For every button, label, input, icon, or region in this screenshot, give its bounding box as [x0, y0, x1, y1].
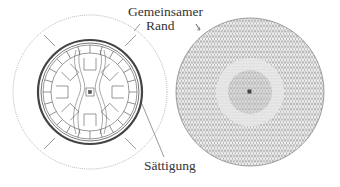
fem-mesh [176, 18, 324, 166]
leader-saturation [142, 104, 164, 157]
common-boundary-label-line1: Gemeinsamer [128, 5, 203, 19]
leader-left-boundary [134, 24, 140, 31]
saturation-label: Sättigung [144, 159, 196, 173]
motor-cross-section [13, 15, 167, 169]
common-boundary-label-line2: Rand [146, 19, 175, 33]
